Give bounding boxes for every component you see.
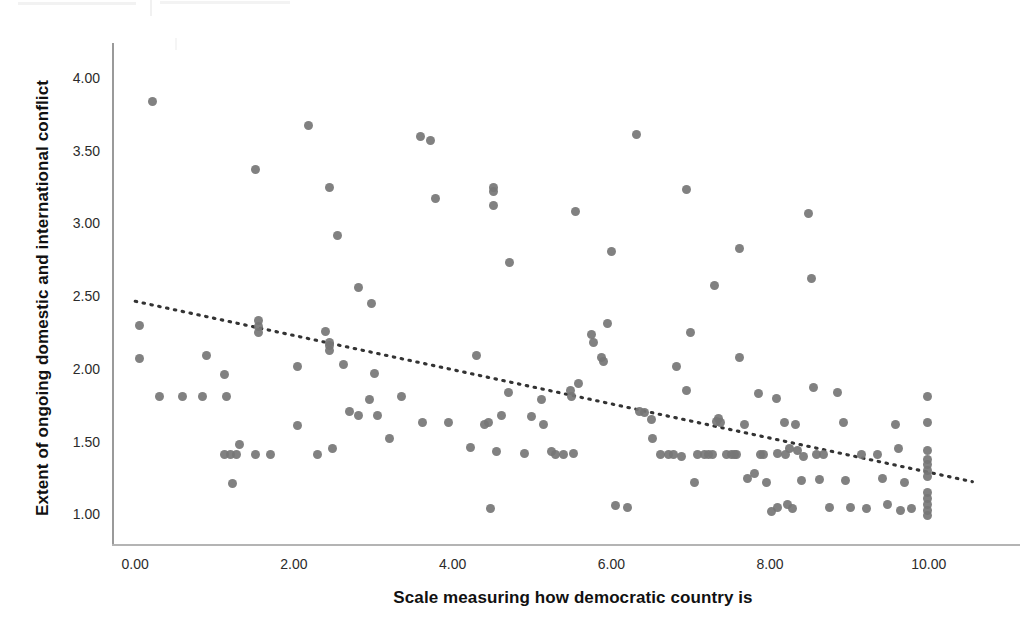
- scatter-point: [735, 244, 744, 253]
- scatter-point: [178, 392, 187, 401]
- scatter-point: [328, 444, 337, 453]
- scatter-point: [537, 395, 546, 404]
- scatter-point: [682, 185, 691, 194]
- scatter-point: [923, 418, 932, 427]
- scatter-point: [732, 450, 741, 459]
- scatter-point: [486, 504, 495, 513]
- scatter-point: [815, 475, 824, 484]
- scatter-point: [539, 420, 548, 429]
- scatter-point: [489, 201, 498, 210]
- scatter-point: [682, 386, 691, 395]
- scatter-point: [587, 330, 596, 339]
- data-points: [0, 0, 1027, 625]
- x-axis-title: Scale measuring how democratic country i…: [113, 588, 1027, 608]
- scatter-point: [505, 258, 514, 267]
- scatter-point: [426, 136, 435, 145]
- scatter-point: [797, 476, 806, 485]
- scatter-point: [716, 418, 725, 427]
- scatter-point: [907, 504, 916, 513]
- scatter-point: [690, 478, 699, 487]
- scatter-point: [574, 379, 583, 388]
- scatter-point: [135, 354, 144, 363]
- scatter-point: [780, 418, 789, 427]
- scatter-point: [686, 328, 695, 337]
- scatter-point: [222, 392, 231, 401]
- scatter-point: [788, 504, 797, 513]
- scatter-point: [571, 207, 580, 216]
- scatter-point: [354, 283, 363, 292]
- scatter-point: [321, 327, 330, 336]
- scatter-point: [759, 450, 768, 459]
- scatter-point: [135, 321, 144, 330]
- scatter-point: [839, 418, 848, 427]
- scatter-point: [370, 369, 379, 378]
- scatter-point: [799, 452, 808, 461]
- scatter-point: [750, 469, 759, 478]
- scatter-point: [232, 450, 241, 459]
- scatter-point: [365, 395, 374, 404]
- scatter-point: [611, 501, 620, 510]
- scatter-point: [504, 388, 513, 397]
- scatter-point: [648, 434, 657, 443]
- scatter-point: [740, 420, 749, 429]
- scatter-point: [710, 281, 719, 290]
- scatter-point: [841, 476, 850, 485]
- scatter-point: [708, 450, 717, 459]
- scatter-point: [325, 346, 334, 355]
- scatter-point: [607, 247, 616, 256]
- scatter-point: [220, 370, 229, 379]
- scatter-point: [923, 472, 932, 481]
- scatter-point: [807, 274, 816, 283]
- scatter-point: [293, 421, 302, 430]
- scatter-point: [325, 183, 334, 192]
- scatter-point: [339, 360, 348, 369]
- scatter-point: [632, 130, 641, 139]
- scatter-point: [846, 503, 855, 512]
- y-axis-title: Extent of ongoing domestic and internati…: [30, 38, 56, 558]
- scatter-point: [254, 328, 263, 337]
- scatter-point: [228, 479, 237, 488]
- scatter-point: [431, 194, 440, 203]
- scatter-point: [444, 418, 453, 427]
- scatter-point: [862, 504, 871, 513]
- scatter-point: [791, 420, 800, 429]
- scatter-point: [896, 506, 905, 515]
- scatter-point: [647, 415, 656, 424]
- scatter-point: [235, 440, 244, 449]
- scatter-point: [559, 450, 568, 459]
- scatter-point: [345, 407, 354, 416]
- scatter-point: [520, 449, 529, 458]
- scatter-point: [198, 392, 207, 401]
- scatter-point: [367, 299, 376, 308]
- scatter-point: [762, 478, 771, 487]
- scatter-point: [923, 511, 932, 520]
- scatter-point: [385, 434, 394, 443]
- scatter-point: [599, 357, 608, 366]
- scatter-point: [603, 319, 612, 328]
- scatter-point: [293, 362, 302, 371]
- scatter-point: [397, 392, 406, 401]
- scatter-point: [894, 444, 903, 453]
- scatter-point: [155, 392, 164, 401]
- scatter-point: [527, 412, 536, 421]
- scatter-point: [878, 474, 887, 483]
- scatter-point: [825, 503, 834, 512]
- scatter-point: [567, 392, 576, 401]
- scatter-point: [304, 121, 313, 130]
- scatter-point: [418, 418, 427, 427]
- scatter-point: [313, 450, 322, 459]
- scatter-point: [466, 443, 475, 452]
- scatter-point: [833, 388, 842, 397]
- scatter-point: [333, 231, 342, 240]
- scatter-point: [809, 383, 818, 392]
- scatter-point: [416, 132, 425, 141]
- scatter-point: [354, 411, 363, 420]
- scatter-point: [202, 351, 211, 360]
- scatter-point: [589, 338, 598, 347]
- scatter-point: [472, 351, 481, 360]
- scatter-point: [754, 389, 763, 398]
- scatter-point: [497, 411, 506, 420]
- scatter-point: [873, 450, 882, 459]
- scatter-point: [484, 418, 493, 427]
- scatter-point: [900, 478, 909, 487]
